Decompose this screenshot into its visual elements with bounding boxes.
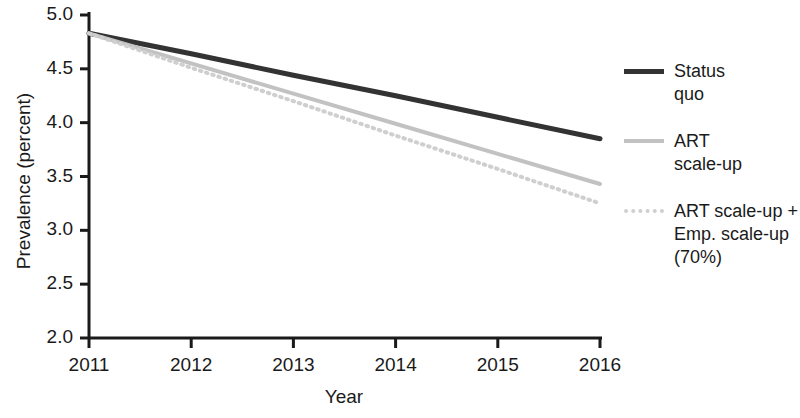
series-line-2 [89,33,600,203]
x-axis-tick-label: 2016 [565,354,635,376]
legend-entry[interactable]: ARTscale-up [624,130,800,176]
legend-entry[interactable]: Statusquo [624,60,800,106]
series-line-0 [89,33,600,139]
legend-label: ART scale-up + [674,200,800,223]
x-axis-title: Year [289,386,399,408]
legend-label: Status [674,60,800,83]
x-axis-tick-label: 2015 [463,354,533,376]
x-axis-tick-label: 2012 [156,354,226,376]
chart-legend: StatusquoARTscale-upART scale-up +Emp. s… [624,60,800,293]
x-axis-tick-label: 2011 [54,354,124,376]
y-axis-tick-label: 5.0 [19,3,73,25]
legend-label: scale-up [674,153,800,176]
y-axis-title: Prevalence (percent) [13,71,35,291]
legend-swatch-1 [624,139,664,143]
axis-lines [89,12,602,338]
legend-label: (70%) [674,246,800,269]
legend-label: quo [674,83,800,106]
chart-figure: 2.02.53.03.54.04.55.0 201120122013201420… [0,0,800,418]
legend-label: ART [674,130,800,153]
legend-entry[interactable]: ART scale-up +Emp. scale-up(70%) [624,200,800,269]
data-series-lines [89,33,600,203]
x-axis-tick-label: 2014 [361,354,431,376]
legend-swatch-2 [624,209,664,213]
series-line-1 [89,33,600,184]
y-axis-tick-label: 2.0 [19,326,73,348]
x-axis-tick-label: 2013 [258,354,328,376]
legend-swatch-0 [624,69,664,74]
legend-label: Emp. scale-up [674,223,800,246]
